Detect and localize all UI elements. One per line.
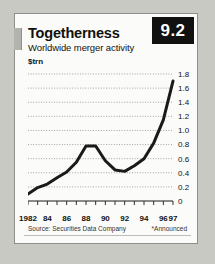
y-axis-tick-label: 1.2 [178, 112, 190, 121]
chart-plot-area: 00.20.40.60.81.01.21.41.61.8 [28, 71, 168, 211]
gridlines-group [28, 74, 173, 187]
announced-note: *Announced [152, 225, 187, 232]
y-axis-unit-label: $trn [28, 57, 43, 66]
chart-card: 9.2 Togetherness Worldwide merger activi… [14, 13, 198, 244]
chart-number-badge: 9.2 [152, 17, 194, 44]
y-axis-tick-label: 0 [178, 197, 183, 206]
y-axis-labels-group: 00.20.40.60.81.01.21.41.61.8 [178, 71, 190, 206]
page-title: Togetherness [28, 25, 120, 41]
data-series-line [28, 81, 173, 194]
y-axis-tick-label: 0.8 [178, 140, 190, 149]
y-axis-tick-label: 1.6 [178, 84, 190, 93]
source-note: Source: Securities Data Company [28, 225, 126, 232]
footer-divider [24, 235, 191, 236]
chart-subtitle: Worldwide merger activity [28, 42, 134, 53]
y-axis-tick-label: 1.8 [178, 71, 190, 79]
x-axis-ticks-group [28, 201, 173, 205]
y-axis-tick-label: 0.2 [178, 183, 190, 192]
y-axis-tick-label: 0.4 [178, 169, 190, 178]
y-axis-tick-label: 1.0 [178, 126, 190, 135]
y-axis-tick-label: 1.4 [178, 98, 190, 107]
y-axis-tick-label: 0.6 [178, 155, 190, 164]
x-axis-tick-label: 97 [159, 214, 187, 223]
line-chart-svg: 00.20.40.60.81.01.21.41.61.8 [28, 71, 198, 216]
card-edge-tab [14, 28, 22, 50]
